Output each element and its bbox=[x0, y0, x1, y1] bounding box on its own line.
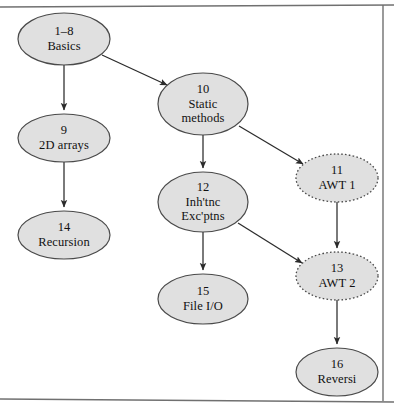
edge-basics-to-static-methods bbox=[102, 55, 167, 85]
node-file-io[interactable] bbox=[158, 274, 248, 324]
node-awt2[interactable] bbox=[296, 252, 378, 300]
node-basics[interactable] bbox=[18, 13, 110, 65]
node-awt1[interactable] bbox=[296, 154, 378, 202]
edge-static-methods-to-awt1 bbox=[239, 126, 303, 164]
node-inheritance-exceptions[interactable] bbox=[158, 172, 248, 232]
edge-inheritance-exceptions-to-awt2 bbox=[238, 223, 302, 263]
node-recursion[interactable] bbox=[18, 211, 110, 259]
dependency-graph bbox=[0, 0, 394, 409]
node-reversi[interactable] bbox=[296, 348, 378, 396]
diagram-canvas: 1–8 Basics 9 2D arrays 14 Recursion 10 S… bbox=[0, 0, 394, 409]
node-layer bbox=[18, 13, 378, 396]
node-2d-arrays[interactable] bbox=[18, 114, 110, 162]
node-static-methods[interactable] bbox=[158, 73, 248, 135]
